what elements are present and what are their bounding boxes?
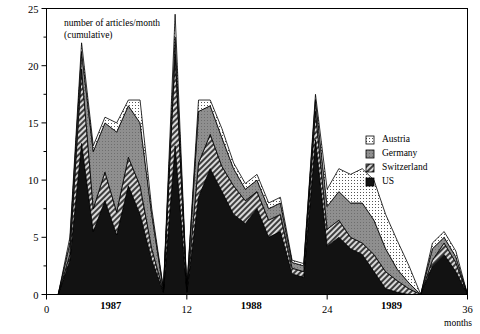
y-axis-tick-label: 15 bbox=[28, 118, 39, 129]
y-axis-tick-label: 25 bbox=[28, 4, 39, 15]
legend-label-switzerland: Switzerland bbox=[382, 162, 428, 172]
chart-figure: 0510152025 0122436 198719881989 number o… bbox=[0, 0, 480, 334]
legend-label-us: US bbox=[382, 176, 394, 186]
stacked-area-chart: 0510152025 0122436 198719881989 number o… bbox=[0, 0, 480, 334]
legend-swatch-switzerland bbox=[366, 164, 374, 172]
legend-swatch-us bbox=[366, 178, 374, 186]
y-axis-tick-label: 20 bbox=[28, 61, 39, 72]
year-label: 1988 bbox=[241, 300, 262, 311]
annotation-line-1: number of articles/month bbox=[64, 18, 160, 28]
x-axis-tick-label: 36 bbox=[462, 304, 473, 315]
year-label: 1987 bbox=[100, 300, 121, 311]
y-axis-tick-label: 0 bbox=[33, 290, 38, 301]
legend-swatch-germany bbox=[366, 150, 374, 158]
x-axis-tick-label: 12 bbox=[182, 304, 193, 315]
y-axis-tick-label: 10 bbox=[28, 175, 39, 186]
legend-swatch-austria bbox=[366, 136, 374, 144]
x-axis-tick-label: 24 bbox=[322, 304, 333, 315]
legend-label-germany: Germany bbox=[382, 148, 418, 158]
year-label: 1989 bbox=[381, 300, 402, 311]
legend-label-austria: Austria bbox=[382, 134, 411, 144]
y-axis-tick-label: 5 bbox=[33, 232, 38, 243]
x-axis-title: months bbox=[444, 318, 472, 328]
x-axis-tick-label: 0 bbox=[44, 304, 49, 315]
annotation-line-2: (cumulative) bbox=[64, 30, 113, 41]
